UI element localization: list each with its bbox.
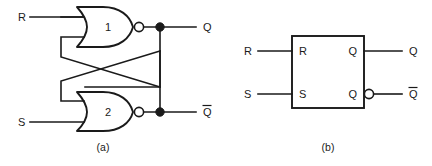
label-qbar-output-group: Q bbox=[203, 106, 213, 119]
pin-label-s: S bbox=[299, 88, 306, 100]
logic-diagram-svg: 1 2 bbox=[0, 0, 432, 166]
outer-label-r: R bbox=[244, 45, 252, 57]
caption-panel-b: (b) bbox=[322, 141, 335, 153]
qbar-junction-dot bbox=[156, 108, 164, 116]
outer-label-qbar: Q bbox=[409, 88, 418, 100]
label-qbar-output: Q bbox=[203, 106, 212, 118]
figure-container: 1 2 bbox=[0, 0, 432, 166]
caption-panel-a: (a) bbox=[97, 141, 110, 153]
outer-label-q: Q bbox=[409, 45, 418, 57]
nor-gate-1-bubble-icon bbox=[134, 22, 143, 31]
pin-label-q: Q bbox=[348, 45, 357, 57]
label-s-input: S bbox=[18, 116, 25, 128]
panel-a-group: 1 2 bbox=[18, 7, 212, 153]
nor-gate-2-number: 2 bbox=[105, 106, 111, 118]
block-qbar-bubble-icon bbox=[364, 89, 373, 98]
nor-gate-2-bubble-icon bbox=[134, 107, 143, 116]
outer-label-qbar-group: Q bbox=[409, 88, 419, 101]
panel-b-group: R S Q Q R R S Q Q (b) bbox=[244, 36, 418, 153]
pin-label-qbar: Q bbox=[348, 88, 357, 100]
nor-gate-1-number: 1 bbox=[105, 21, 111, 33]
label-r-input: R bbox=[18, 11, 26, 23]
outer-label-s: S bbox=[244, 88, 251, 100]
pin-label-r: R bbox=[299, 45, 307, 57]
label-q-output: Q bbox=[203, 21, 212, 33]
